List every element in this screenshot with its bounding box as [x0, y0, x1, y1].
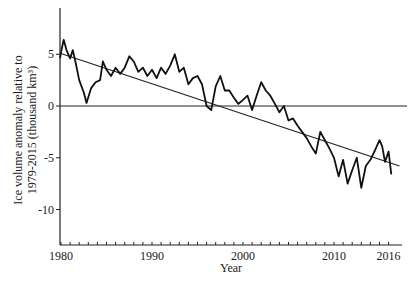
- y-axis-title: Ice volume anomaly relative to 1979-2015…: [11, 55, 39, 204]
- x-axis-title: Year: [220, 261, 242, 275]
- data-series-line: [60, 40, 391, 188]
- y-ticks: 50-5-10: [38, 47, 60, 216]
- x-tick-label: 2016: [377, 249, 401, 263]
- trend-line: [60, 53, 399, 166]
- y-tick-label: -5: [44, 151, 54, 165]
- x-tick-label: 1980: [49, 249, 73, 263]
- ice-volume-chart: 50-5-10 19801990200020102016 Year Ice vo…: [0, 0, 417, 282]
- y-axis-title-line2: 1979-2015 (thousand km³): [25, 66, 39, 194]
- plot-area: [60, 40, 407, 188]
- x-tick-label: 1990: [140, 249, 164, 263]
- y-tick-label: 0: [48, 99, 54, 113]
- y-axis-title-line1: Ice volume anomaly relative to: [11, 55, 25, 204]
- y-tick-label: 5: [48, 47, 54, 61]
- y-tick-label: -10: [38, 203, 54, 217]
- axes: 50-5-10 19801990200020102016: [38, 8, 402, 263]
- x-tick-label: 2010: [322, 249, 346, 263]
